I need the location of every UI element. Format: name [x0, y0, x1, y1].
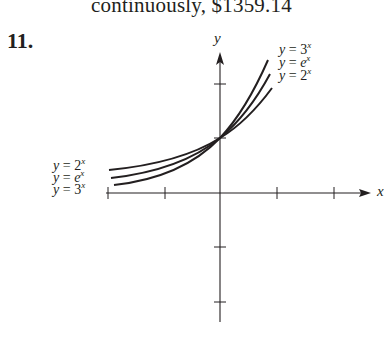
label-left-3x: y = 3x [53, 184, 85, 196]
y-axis-label: y [214, 30, 221, 47]
x-axis-label: x [377, 183, 384, 200]
label-right-2x: y = 2x [279, 70, 311, 82]
